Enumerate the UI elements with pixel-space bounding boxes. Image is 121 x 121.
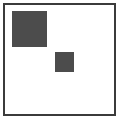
large-square[interactable]: [12, 11, 47, 47]
small-square[interactable]: [55, 52, 74, 72]
image-canvas: [0, 0, 121, 121]
outer-frame: [3, 3, 116, 116]
